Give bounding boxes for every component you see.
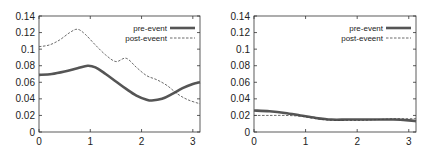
- y-tick-label: 0.06: [231, 77, 251, 88]
- plot-frame: [39, 16, 200, 132]
- x-tick-label: 2: [139, 136, 145, 147]
- y-tick-label: 0.06: [16, 77, 36, 88]
- legend-label: post-eveent: [341, 34, 384, 43]
- y-tick-label: 0.14: [16, 11, 36, 22]
- y-tick-label: 0: [29, 127, 35, 138]
- chart-panel-1: 00.020.040.060.080.10.120.140123pre-even…: [16, 11, 200, 148]
- legend-label: pre-event: [349, 24, 384, 33]
- y-tick-label: 0.1: [236, 44, 250, 55]
- x-tick-label: 3: [190, 136, 196, 147]
- x-tick-label: 3: [406, 136, 412, 147]
- chart-panel-2: 00.020.040.060.080.10.120.140123pre-even…: [231, 11, 416, 148]
- plot-frame: [254, 16, 416, 132]
- y-tick-label: 0.02: [16, 110, 36, 121]
- x-tick-label: 0: [251, 136, 257, 147]
- x-tick-label: 2: [354, 136, 360, 147]
- series-line-post-eveent: [39, 29, 200, 104]
- y-tick-label: 0: [244, 127, 250, 138]
- series-line-pre-event: [39, 66, 200, 101]
- y-tick-label: 0.1: [21, 44, 35, 55]
- y-tick-label: 0.14: [231, 11, 251, 22]
- chart-canvas: 00.020.040.060.080.10.120.140123pre-even…: [0, 0, 435, 154]
- y-tick-label: 0.04: [16, 93, 36, 104]
- y-tick-label: 0.02: [231, 110, 251, 121]
- series-line-pre-event: [254, 110, 416, 121]
- x-tick-label: 0: [36, 136, 42, 147]
- y-tick-label: 0.08: [231, 60, 251, 71]
- x-tick-label: 1: [87, 136, 93, 147]
- x-tick-label: 1: [303, 136, 309, 147]
- legend-label: post-eveent: [125, 34, 168, 43]
- y-tick-label: 0.12: [16, 27, 36, 38]
- legend-label: pre-event: [133, 24, 168, 33]
- y-tick-label: 0.12: [231, 27, 251, 38]
- y-tick-label: 0.08: [16, 60, 36, 71]
- y-tick-label: 0.04: [231, 93, 251, 104]
